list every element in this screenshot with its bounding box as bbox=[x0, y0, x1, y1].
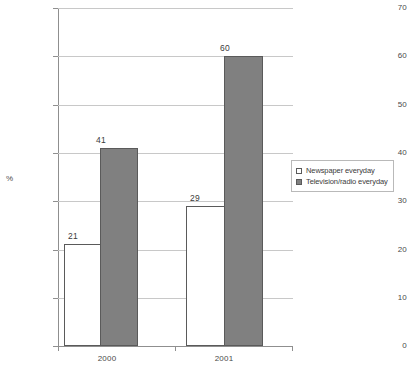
bar-value-newspaper-2000: 21 bbox=[53, 232, 93, 241]
bar-tv-2001[interactable] bbox=[224, 56, 263, 346]
bar-value-newspaper-2001: 29 bbox=[175, 194, 215, 203]
y-tick-label: 70 bbox=[361, 4, 407, 12]
bar-newspaper-2001[interactable] bbox=[186, 206, 225, 346]
legend-label-television-radio: Television/radio everyday bbox=[306, 178, 388, 186]
y-tick-label: 50 bbox=[361, 101, 407, 109]
y-tick-label: 10 bbox=[361, 294, 407, 302]
bar-tv-2000[interactable] bbox=[100, 148, 138, 346]
bar-value-tv-2000: 41 bbox=[80, 136, 122, 145]
bar-value-tv-2001: 60 bbox=[204, 44, 246, 53]
y-tick-label: 0 bbox=[361, 342, 407, 350]
x-axis-label-2000: 2000 bbox=[84, 354, 130, 363]
hollow-square-icon bbox=[296, 168, 302, 174]
bar-newspaper-2000[interactable] bbox=[64, 244, 101, 346]
x-axis-label-2001: 2001 bbox=[201, 354, 247, 363]
legend-item-newspaper[interactable]: Newspaper everyday bbox=[296, 165, 388, 176]
bar-chart: % 70 60 50 40 30 20 10 0 bbox=[0, 0, 407, 375]
gridline bbox=[58, 8, 293, 9]
y-axis-title: % bbox=[6, 175, 13, 183]
y-tick-label: 40 bbox=[361, 149, 407, 157]
chart-legend: Newspaper everyday Television/radio ever… bbox=[291, 160, 394, 192]
filled-square-icon bbox=[296, 179, 302, 185]
y-tick-label: 60 bbox=[361, 52, 407, 60]
legend-label-newspaper: Newspaper everyday bbox=[306, 167, 375, 175]
plot-area bbox=[58, 8, 293, 346]
y-tick-label: 20 bbox=[361, 246, 407, 254]
legend-item-television-radio[interactable]: Television/radio everyday bbox=[296, 176, 388, 187]
y-tick-label: 30 bbox=[361, 197, 407, 205]
